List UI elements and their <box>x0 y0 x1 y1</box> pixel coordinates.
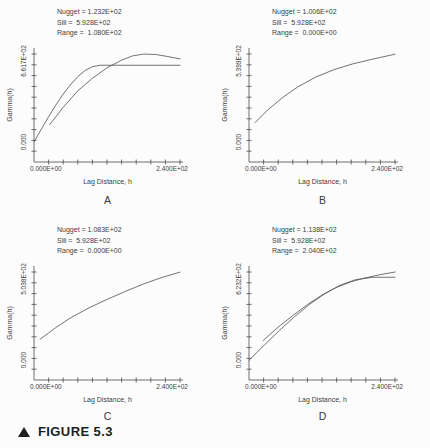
variogram-panel-d: Nugget = 1.138E+02 Sill = 5.928E+02 Rang… <box>215 220 430 442</box>
variogram-chart-c <box>0 260 215 390</box>
sill-value: Sill = 5.928E+02 <box>57 18 122 29</box>
model-parameters-a: Nugget = 1.232E+02 Sill = 5.928E+02 Rang… <box>57 7 122 39</box>
range-value: Range = 1.080E+02 <box>57 28 122 39</box>
sill-value: Sill = 5.928E+02 <box>57 236 122 247</box>
x-axis-max-tick-label: 2.400E+02 <box>371 383 403 390</box>
panel-letter-a: A <box>0 194 215 206</box>
nugget-value: Nugget = 1.232E+02 <box>57 7 122 18</box>
x-axis-max-tick-label: 2.400E+02 <box>371 165 403 172</box>
x-axis-min-tick-label: 0.000E+00 <box>245 165 277 172</box>
variogram-chart-b <box>215 42 430 172</box>
panel-letter-d: D <box>215 410 430 422</box>
nugget-value: Nugget = 1.006E+02 <box>272 7 337 18</box>
sill-value: Sill = 5.928E+02 <box>272 236 337 247</box>
variogram-chart-a <box>0 42 215 172</box>
x-axis-max-tick-label: 2.400E+02 <box>156 165 188 172</box>
x-axis-min-tick-label: 0.000E+00 <box>245 383 277 390</box>
panel-letter-c: C <box>0 410 215 422</box>
x-axis-label: Lag Distance, h <box>215 396 430 403</box>
x-axis-label: Lag Distance, h <box>0 396 215 403</box>
variogram-chart-d <box>215 260 430 390</box>
variogram-panel-c: Nugget = 1.083E+02 Sill = 5.928E+02 Rang… <box>0 220 215 442</box>
model-parameters-c: Nugget = 1.083E+02 Sill = 5.928E+02 Rang… <box>57 225 122 257</box>
x-axis-min-tick-label: 0.000E+00 <box>30 165 62 172</box>
x-axis-max-tick-label: 2.400E+02 <box>156 383 188 390</box>
x-axis-min-tick-label: 0.000E+00 <box>30 383 62 390</box>
variogram-panel-b: Nugget = 1.006E+02 Sill = 5.928E+02 Rang… <box>215 2 430 224</box>
range-value: Range = 0.000E+00 <box>57 246 122 257</box>
variogram-panel-a: Nugget = 1.232E+02 Sill = 5.928E+02 Rang… <box>0 2 215 224</box>
model-parameters-d: Nugget = 1.138E+02 Sill = 5.928E+02 Rang… <box>272 225 337 257</box>
x-axis-label: Lag Distance, h <box>215 178 430 185</box>
figure-caption: FIGURE 5.3 <box>18 424 113 439</box>
nugget-value: Nugget = 1.138E+02 <box>272 225 337 236</box>
nugget-value: Nugget = 1.083E+02 <box>57 225 122 236</box>
figure-caption-text: FIGURE 5.3 <box>38 424 113 439</box>
range-value: Range = 0.000E+00 <box>272 28 337 39</box>
sill-value: Sill = 5.928E+02 <box>272 18 337 29</box>
model-parameters-b: Nugget = 1.006E+02 Sill = 5.928E+02 Rang… <box>272 7 337 39</box>
triangle-marker-icon <box>18 427 30 437</box>
range-value: Range = 2.040E+02 <box>272 246 337 257</box>
x-axis-label: Lag Distance, h <box>0 178 215 185</box>
panel-letter-b: B <box>215 194 430 206</box>
